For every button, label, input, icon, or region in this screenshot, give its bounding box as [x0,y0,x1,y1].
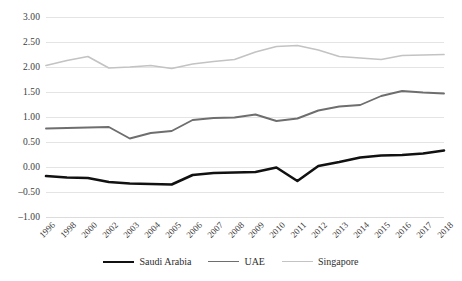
x-axis-tick-label: 2005 [163,220,183,240]
legend-label: UAE [244,256,265,267]
x-axis-tick-label: 2003 [121,220,141,240]
y-axis-tick-label: 3.00 [23,12,40,22]
chart-legend: Saudi ArabiaUAESingapore [0,256,462,267]
legend-label: Saudi Arabia [139,256,191,267]
x-axis-tick-label: 2014 [351,220,371,240]
x-axis-tick-label: 2006 [184,220,204,240]
line-chart: 3.002.502.001.501.000.500.00–0.50–1.00 1… [0,0,462,281]
y-axis-tick-label: 2.50 [23,37,40,47]
x-axis-tick-label: 2012 [310,220,330,240]
legend-swatch-line-icon [282,261,313,262]
series-layer [46,17,444,217]
series-line-uae [46,91,444,139]
x-axis-tick-label: 2008 [226,220,246,240]
x-axis-tick-label: 2000 [79,220,99,240]
x-axis-tick-label: 2010 [268,220,288,240]
legend-item-saudi-arabia[interactable]: Saudi Arabia [103,256,191,267]
x-axis-tick-label: 2004 [142,220,162,240]
x-axis-tick-label: 2018 [435,220,455,240]
y-axis-tick-label: 0.00 [23,162,40,172]
y-axis-tick-label: 1.50 [23,87,40,97]
legend-swatch-line-icon [208,261,239,262]
legend-label: Singapore [318,256,359,267]
x-axis-tick-label: 2007 [205,220,225,240]
x-axis-tick-label: 2016 [393,220,413,240]
legend-item-singapore[interactable]: Singapore [282,256,359,267]
x-axis-tick-label: 2011 [289,220,309,240]
x-axis-tick-label: 2017 [414,220,434,240]
x-axis-tick-label: 2002 [100,220,120,240]
legend-item-uae[interactable]: UAE [208,256,265,267]
x-axis-tick-label: 2009 [247,220,267,240]
y-axis-tick-label: 0.50 [23,137,40,147]
x-axis-tick-label: 2013 [331,220,351,240]
y-axis-tick-label: –0.50 [18,187,40,197]
x-axis-tick-label: 2015 [372,220,392,240]
plot-area [46,17,444,217]
y-axis-tick-label: –1.00 [18,212,40,222]
y-axis: 3.002.502.001.501.000.500.00–0.50–1.00 [0,0,44,281]
series-line-singapore [46,46,444,69]
y-axis-tick-label: 1.00 [23,112,40,122]
legend-swatch-line-icon [103,261,134,263]
x-axis-tick-label: 1998 [58,220,78,240]
y-axis-tick-label: 2.00 [23,62,40,72]
x-axis: 1996199820002002200320042005200620072008… [46,217,444,257]
series-line-saudi-arabia [46,151,444,185]
